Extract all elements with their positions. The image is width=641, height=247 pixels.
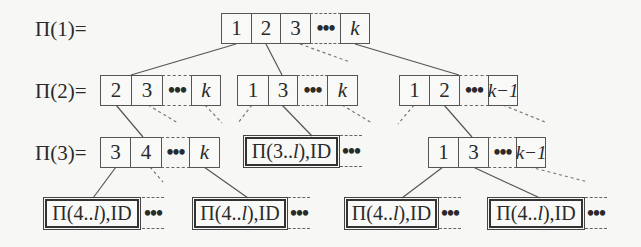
- l4-leaf-2: Π(4.. l),ID: [194, 199, 286, 228]
- l2c-cell-1: 1: [399, 75, 430, 106]
- l2a-cell-1: 2: [100, 75, 132, 106]
- l2b-cell-1: 1: [237, 75, 269, 106]
- l1-ellipsis: •••: [310, 13, 341, 44]
- l1-cell-k: k: [340, 13, 370, 44]
- l4-leaf-2-prefix: Π(4..: [200, 202, 241, 225]
- l4-leaf-4-prefix: Π(4..: [496, 202, 537, 225]
- l4-leaf-3-suffix: ),ID: [398, 202, 431, 225]
- l4-leaf-4-suffix: ),ID: [543, 202, 576, 225]
- l3b-ellipsis: •••: [340, 135, 362, 167]
- l4-leaf-3-prefix: Π(4..: [352, 202, 393, 225]
- row-label-pi1: Π(1)=: [35, 17, 87, 41]
- l2b-ellipsis: •••: [297, 75, 328, 106]
- row-label-pi3: Π(3)=: [35, 141, 87, 165]
- l4-leaf-1-ellipsis: •••: [142, 197, 164, 229]
- l4-leaf-2-suffix: ),ID: [247, 202, 280, 225]
- l2c-cell-k-minus-1: k−1: [488, 75, 518, 106]
- permutation-tree-diagram: Π(1)= Π(2)= Π(3)= 1 2 3 ••• k 2 3 ••• k …: [0, 0, 641, 247]
- row-label-pi2: Π(2)=: [35, 79, 87, 103]
- l3b-leaf-prefix: Π(3..: [252, 140, 293, 163]
- l2a-cell-2: 3: [131, 75, 163, 106]
- l3c-ellipsis: •••: [488, 137, 517, 168]
- l3a-cell-1: 3: [100, 137, 131, 168]
- l4-leaf-1-prefix: Π(4..: [52, 202, 93, 225]
- l2b-cell-2: 3: [268, 75, 298, 106]
- l3c-cell-2: 3: [458, 137, 489, 168]
- l4-leaf-4-ellipsis: •••: [585, 197, 607, 229]
- l4-leaf-3-ellipsis: •••: [439, 197, 461, 229]
- l1-cell-3: 3: [280, 13, 311, 44]
- l3c-cell-1: 1: [428, 137, 459, 168]
- l3b-leaf-suffix: ),ID: [298, 140, 331, 163]
- l3a-cell-2: 4: [130, 137, 162, 168]
- l4-leaf-1: Π(4.. l),ID: [45, 199, 139, 228]
- l2c-ellipsis: •••: [459, 75, 489, 106]
- l4-leaf-3: Π(4.. l),ID: [346, 199, 437, 228]
- l3a-ellipsis: •••: [161, 137, 190, 168]
- l2a-cell-k: k: [191, 75, 221, 106]
- l1-cell-1: 1: [221, 13, 252, 44]
- l4-leaf-2-ellipsis: •••: [288, 197, 310, 229]
- l4-leaf-4: Π(4.. l),ID: [489, 199, 583, 228]
- l2a-ellipsis: •••: [162, 75, 192, 106]
- l1-cell-2: 2: [251, 13, 281, 44]
- l3c-cell-k-minus-1: k−1: [516, 137, 546, 168]
- l3b-leaf-box: Π(3.. l),ID: [245, 137, 338, 166]
- l2b-cell-k: k: [327, 75, 358, 106]
- l3a-cell-k: k: [189, 137, 220, 168]
- l4-leaf-1-suffix: ),ID: [99, 202, 132, 225]
- l2c-cell-2: 2: [429, 75, 460, 106]
